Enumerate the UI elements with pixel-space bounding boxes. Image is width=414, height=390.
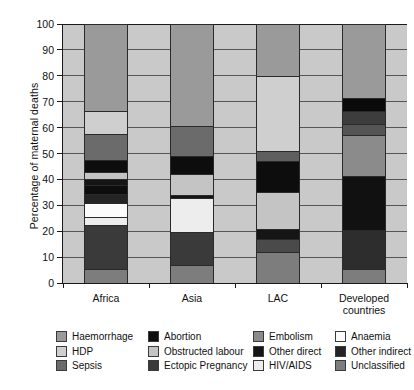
chart-container: Percentage of maternal deaths 0102030405… xyxy=(0,0,414,390)
legend-label: Abortion xyxy=(164,331,201,342)
legend-item-hdp[interactable]: HDP xyxy=(56,346,148,357)
bar-africa[interactable] xyxy=(84,24,128,283)
legend-item-embolism[interactable]: Embolism xyxy=(253,331,335,342)
legend-item-ectopic-pregnancy[interactable]: Ectopic Pregnancy xyxy=(148,360,253,371)
bar-segment-embolism[interactable] xyxy=(343,135,385,175)
bar-segment-haemorrhage[interactable] xyxy=(85,24,127,111)
y-axis-tick-label-0: 0 xyxy=(48,277,54,289)
y-axis-tick-label-20: 20 xyxy=(42,225,54,237)
y-axis-title: Percentage of maternal deaths xyxy=(28,46,40,266)
bar-segment-anaemia[interactable] xyxy=(85,203,127,217)
bar-segment-obstructed-labour[interactable] xyxy=(171,174,213,195)
legend-item-abortion[interactable]: Abortion xyxy=(148,331,253,342)
legend-swatch-icon xyxy=(253,346,264,357)
bar-segment-hiv-aids[interactable] xyxy=(85,217,127,225)
legend-item-sepsis[interactable]: Sepsis xyxy=(56,360,148,371)
x-axis-tick-3 xyxy=(321,283,322,288)
bar-lac[interactable] xyxy=(256,24,300,283)
legend-label: Ectopic Pregnancy xyxy=(164,360,247,371)
y-axis-tick-30 xyxy=(57,205,63,206)
legend-label: Unclassified xyxy=(351,360,405,371)
bar-segment-unclassified[interactable] xyxy=(85,269,127,283)
y-axis-tick-50 xyxy=(57,153,63,154)
bar-segment-haemorrhage[interactable] xyxy=(257,24,299,76)
legend-label: Haemorrhage xyxy=(72,331,133,342)
bar-segment-hdp[interactable] xyxy=(85,111,127,134)
bar-segment-obstructed-labour[interactable] xyxy=(257,192,299,228)
bar-segment-hdp[interactable] xyxy=(257,76,299,151)
legend-swatch-icon xyxy=(253,331,264,342)
bar-asia[interactable] xyxy=(170,24,214,283)
bar-segment-other-direct[interactable] xyxy=(171,195,213,198)
legend-swatch-icon xyxy=(335,360,346,371)
bar-segment-other-direct[interactable] xyxy=(343,124,385,136)
x-axis-label-asia: Asia xyxy=(182,292,202,304)
x-axis-label-africa: Africa xyxy=(93,292,120,304)
y-axis-tick-40 xyxy=(57,179,63,180)
legend-row: HDPObstructed labourOther directOther in… xyxy=(56,346,408,357)
x-axis-tick-end xyxy=(407,283,408,288)
x-axis-label-lac: LAC xyxy=(268,292,288,304)
legend-label: Sepsis xyxy=(72,360,102,371)
legend-item-other-indirect[interactable]: Other indirect xyxy=(335,346,408,357)
bar-segment-abortion[interactable] xyxy=(343,98,385,111)
bar-segment-unclassified[interactable] xyxy=(257,252,299,283)
legend-label: Other indirect xyxy=(351,346,411,357)
bar-developed-countries[interactable] xyxy=(342,24,386,283)
legend-item-other-direct[interactable]: Other direct xyxy=(253,346,335,357)
bar-segment-unclassified[interactable] xyxy=(171,265,213,283)
bar-segment-ectopic-pregnancy[interactable] xyxy=(85,225,127,269)
bar-segment-unclassified[interactable] xyxy=(343,269,385,283)
bar-segment-ectopic-pregnancy[interactable] xyxy=(171,232,213,264)
legend-swatch-icon xyxy=(335,346,346,357)
legend-label: HDP xyxy=(72,346,93,357)
legend-item-haemorrhage[interactable]: Haemorrhage xyxy=(56,331,148,342)
bar-segment-other-direct[interactable] xyxy=(85,179,127,184)
y-axis-tick-label-60: 60 xyxy=(42,122,54,134)
legend-item-unclassified[interactable]: Unclassified xyxy=(335,360,408,371)
legend-label: Obstructed labour xyxy=(164,346,244,357)
bar-segment-abortion[interactable] xyxy=(257,161,299,192)
bar-segment-sepsis[interactable] xyxy=(343,111,385,124)
bar-segment-sepsis[interactable] xyxy=(171,126,213,156)
legend-swatch-icon xyxy=(253,360,264,371)
legend-item-obstructed-labour[interactable]: Obstructed labour xyxy=(148,346,253,357)
bar-segment-hiv-aids[interactable] xyxy=(171,198,213,233)
y-axis-tick-label-90: 90 xyxy=(42,44,54,56)
legend-row: HaemorrhageAbortionEmbolismAnaemia xyxy=(56,331,408,342)
y-axis-tick-100 xyxy=(57,24,63,25)
legend-swatch-icon xyxy=(335,331,346,342)
bar-segment-haemorrhage[interactable] xyxy=(343,24,385,98)
legend-swatch-icon xyxy=(56,331,67,342)
bar-segment-other-indirect[interactable] xyxy=(343,176,385,230)
bar-segment-embolism[interactable] xyxy=(257,151,299,161)
y-axis-tick-label-40: 40 xyxy=(42,173,54,185)
bar-segment-obstructed-labour[interactable] xyxy=(85,172,127,180)
chart-legend: HaemorrhageAbortionEmbolismAnaemiaHDPObs… xyxy=(56,331,408,375)
bar-segment-sepsis[interactable] xyxy=(85,134,127,160)
bar-segment-other-direct[interactable] xyxy=(257,229,299,239)
y-axis-tick-label-70: 70 xyxy=(42,96,54,108)
bar-segment-ectopic-pregnancy[interactable] xyxy=(343,230,385,269)
y-axis-tick-70 xyxy=(57,101,63,102)
bar-segment-abortion[interactable] xyxy=(85,160,127,172)
x-axis-tick-2 xyxy=(235,283,236,288)
plot-area: 0102030405060708090100AfricaAsiaLACDevel… xyxy=(62,24,407,284)
bar-segment-other-indirect[interactable] xyxy=(257,239,299,252)
legend-item-anaemia[interactable]: Anaemia xyxy=(335,331,408,342)
y-axis-tick-10 xyxy=(57,257,63,258)
bar-segment-other-indirect[interactable] xyxy=(85,194,127,203)
y-axis-tick-90 xyxy=(57,49,63,50)
x-axis-tick-0 xyxy=(63,283,64,288)
y-axis-tick-label-80: 80 xyxy=(42,70,54,82)
legend-item-hiv-aids[interactable]: HIV/AIDS xyxy=(253,360,335,371)
bar-segment-abortion[interactable] xyxy=(171,156,213,174)
x-axis-label-developed-countries: Developedcountries xyxy=(339,292,389,316)
y-axis-tick-80 xyxy=(57,75,63,76)
legend-swatch-icon xyxy=(56,346,67,357)
legend-label: Embolism xyxy=(269,331,313,342)
bar-segment-abortion[interactable] xyxy=(85,185,127,194)
x-axis-tick-1 xyxy=(149,283,150,288)
legend-label: HIV/AIDS xyxy=(269,360,312,371)
bar-segment-haemorrhage[interactable] xyxy=(171,24,213,126)
